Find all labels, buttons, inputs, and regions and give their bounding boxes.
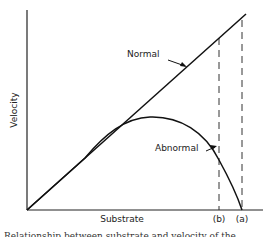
normal-arrowhead — [180, 62, 187, 67]
abnormal-label: Abnormal — [155, 143, 198, 153]
x-axis-label: Substrate — [100, 214, 144, 224]
marker-label-b: (b) — [213, 214, 226, 224]
figure-caption: Relationship between substrate and veloc… — [4, 231, 236, 237]
abnormal-curve — [27, 117, 242, 210]
velocity-substrate-diagram: Normal Abnormal Velocity Substrate (b) (… — [0, 0, 272, 237]
y-axis-label: Velocity — [9, 92, 19, 128]
marker-label-a: (a) — [236, 214, 249, 224]
normal-label: Normal — [127, 49, 160, 59]
